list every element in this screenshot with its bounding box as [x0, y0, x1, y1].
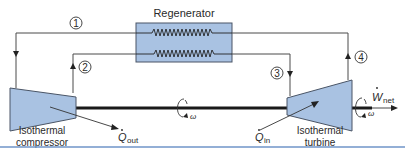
line-state-2: [73, 54, 136, 93]
arrow-down-state-1: [13, 51, 19, 57]
compressor-label: Isothermal compressor: [16, 125, 69, 148]
svg-text:Q: Q: [118, 131, 127, 143]
cycle-diagram: Regenerator 1 2 3: [0, 0, 405, 154]
regenerator-label: Regenerator: [153, 7, 214, 19]
state-1-marker: 1: [70, 17, 82, 29]
svg-text:Q: Q: [255, 131, 264, 143]
svg-text:2: 2: [82, 62, 88, 73]
work-net-label: W net: [372, 87, 395, 105]
heat-out-label: Q out: [118, 129, 139, 145]
svg-text:4: 4: [358, 52, 364, 63]
svg-text:in: in: [264, 136, 270, 145]
work-net-arrow: [372, 105, 398, 111]
arrow-up-state-4: [345, 53, 351, 59]
svg-text:1: 1: [73, 18, 79, 29]
svg-text:out: out: [127, 136, 139, 145]
arrow-down-state-3: [287, 71, 293, 77]
state-4-marker: 4: [355, 51, 367, 63]
svg-text:net: net: [383, 96, 395, 105]
shaft-rotation-icon-center: ω: [177, 99, 196, 121]
heat-in-label: Q in: [255, 129, 270, 145]
line-state-1: [16, 33, 136, 88]
state-2-marker: 2: [79, 61, 91, 73]
state-3-marker: 3: [271, 67, 283, 79]
svg-text:3: 3: [274, 68, 280, 79]
regenerator: Regenerator: [136, 7, 232, 62]
arrow-up-state-2: [70, 63, 76, 69]
turbine-label: Isothermal turbine: [297, 125, 344, 148]
svg-text:Isothermal: Isothermal: [19, 125, 66, 136]
svg-text:Isothermal: Isothermal: [297, 125, 344, 136]
isothermal-turbine: [287, 80, 352, 131]
svg-text:ω: ω: [190, 112, 196, 121]
svg-text:ω: ω: [368, 109, 374, 118]
